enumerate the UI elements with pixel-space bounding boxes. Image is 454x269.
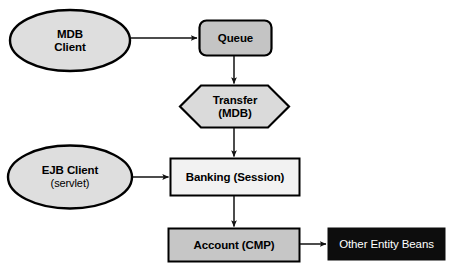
node-shape-mdb-client[interactable] [10, 10, 130, 71]
diagram-svg [0, 0, 454, 269]
node-shape-banking[interactable] [171, 159, 300, 196]
diagram-canvas-root: MDB Client Queue Transfer (MDB) EJB Clie… [0, 0, 454, 269]
node-shape-transfer[interactable] [180, 86, 289, 128]
node-shape-other-entity-beans[interactable] [328, 228, 445, 260]
node-shape-ejb-client[interactable] [8, 146, 132, 209]
node-shape-queue[interactable] [200, 21, 272, 56]
node-shape-account[interactable] [169, 229, 300, 262]
